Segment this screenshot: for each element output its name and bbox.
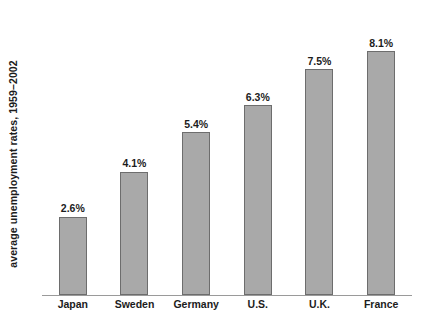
bar-group-us: 6.3%: [227, 0, 288, 295]
bar-group-france: 8.1%: [350, 0, 411, 295]
bar-group-germany: 5.4%: [165, 0, 226, 295]
x-label-uk: U.K.: [289, 298, 350, 310]
bar-sweden: [120, 172, 148, 295]
y-axis-title-label: average unemployment rates, 1959–2002: [7, 60, 19, 267]
bar-germany: [182, 132, 210, 295]
bar-value-france: 8.1%: [369, 38, 393, 49]
bar-chart: average unemployment rates, 1959–2002 2.…: [0, 0, 426, 328]
x-label-france: France: [350, 298, 411, 310]
bars-container: 2.6% 4.1% 5.4% 6.3% 7.5% 8.1%: [42, 0, 412, 295]
bar-value-uk: 7.5%: [307, 56, 331, 67]
x-axis-line: [42, 295, 412, 296]
bar-value-us: 6.3%: [246, 92, 270, 103]
bar-value-japan: 2.6%: [61, 203, 85, 214]
bar-us: [244, 105, 272, 295]
bar-value-germany: 5.4%: [184, 119, 208, 130]
bar-group-uk: 7.5%: [289, 0, 350, 295]
x-label-germany: Germany: [165, 298, 226, 310]
bar-group-japan: 2.6%: [42, 0, 103, 295]
bar-group-sweden: 4.1%: [104, 0, 165, 295]
x-label-japan: Japan: [42, 298, 103, 310]
x-axis-labels: Japan Sweden Germany U.S. U.K. France: [42, 298, 412, 320]
bar-japan: [59, 217, 87, 295]
y-axis-title: average unemployment rates, 1959–2002: [0, 0, 26, 328]
bar-uk: [305, 69, 333, 295]
plot-area: 2.6% 4.1% 5.4% 6.3% 7.5% 8.1%: [42, 0, 412, 296]
x-label-sweden: Sweden: [104, 298, 165, 310]
bar-value-sweden: 4.1%: [123, 158, 147, 169]
x-label-us: U.S.: [227, 298, 288, 310]
bar-france: [367, 51, 395, 295]
